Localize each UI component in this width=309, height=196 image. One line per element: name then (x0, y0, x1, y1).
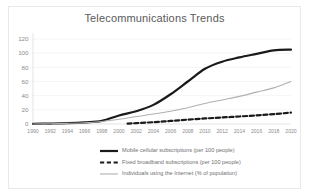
x-axis-tick-label: 2002 (131, 128, 142, 134)
x-axis-tick-label: 2010 (199, 128, 210, 134)
x-axis-tick-label: 2006 (165, 128, 176, 134)
x-axis-tick-label: 1990 (27, 128, 38, 134)
legend-group: Mobile cellular subscriptions (per 100 p… (100, 147, 241, 176)
chart-figure: Telecommunications Trends 02040608010012… (0, 0, 309, 196)
x-axis-tick-label: 2018 (268, 128, 279, 134)
legend-label: Individuals using the Internet (% of pop… (122, 170, 237, 176)
x-axis-tick-label: 2014 (234, 128, 245, 134)
x-axis-tick-label: 2016 (251, 128, 262, 134)
x-axis-tick-label: 1992 (45, 128, 56, 134)
series-line (33, 82, 291, 124)
y-axis-tick-label: 100 (18, 49, 29, 56)
y-axis-tick-label: 40 (22, 92, 29, 99)
x-axis-tick-labels: 1990199219941996199820002002200420062008… (27, 128, 296, 134)
y-axis-tick-labels: 020406080100120 (18, 35, 29, 127)
y-axis-tick-label: 60 (22, 78, 29, 85)
x-axis-tick-label: 2020 (285, 128, 296, 134)
gridlines-group (33, 33, 291, 124)
x-axis-tick-label: 1994 (62, 128, 73, 134)
x-axis-tick-label: 2012 (217, 128, 228, 134)
legend-label: Mobile cellular subscriptions (per 100 p… (122, 147, 235, 153)
chart-plot-area: 020406080100120 199019921994199619982000… (0, 0, 309, 196)
x-axis-tick-label: 2004 (148, 128, 159, 134)
legend-label: Fixed broadband subscriptions (per 100 p… (122, 159, 241, 165)
x-axis-tick-label: 2008 (182, 128, 193, 134)
y-axis-tick-label: 20 (22, 106, 29, 113)
series-group (33, 50, 291, 124)
x-axis-tick-label: 1998 (96, 128, 107, 134)
x-axis-tick-label: 1996 (79, 128, 90, 134)
y-axis-tick-label: 80 (22, 64, 29, 71)
y-axis-tick-label: 0 (25, 120, 29, 127)
y-axis-tick-label: 120 (18, 35, 29, 42)
x-axis-tick-label: 2000 (113, 128, 124, 134)
